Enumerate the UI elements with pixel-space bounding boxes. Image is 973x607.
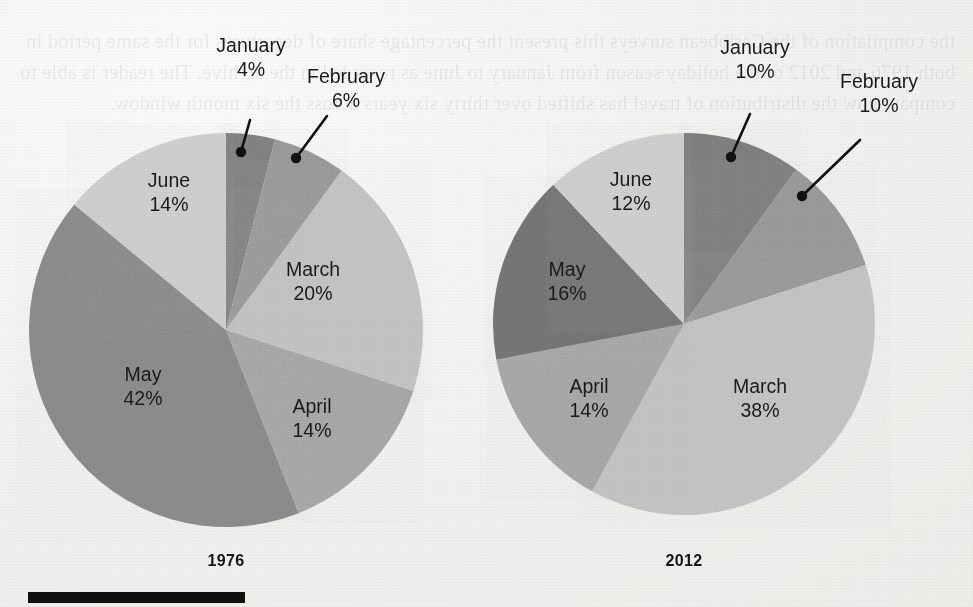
slice-value-june-1976: 14% <box>149 193 188 215</box>
slice-value-march-2012: 38% <box>740 399 779 421</box>
slice-label-june-1976: June <box>148 169 190 191</box>
callout-value-january-2012: 10% <box>735 60 774 82</box>
pie-chart-2012: March38%April14%May16%June12%January10%F… <box>493 36 918 569</box>
pie-chart-1976: March20%April14%May42%June14%January4%Fe… <box>29 34 423 569</box>
slice-label-april-2012: April <box>569 375 608 397</box>
slice-value-april-2012: 14% <box>569 399 608 421</box>
leader-dot-january-2012 <box>726 152 736 162</box>
callout-label-february-1976: February <box>307 65 385 87</box>
slice-value-april-1976: 14% <box>292 419 331 441</box>
figure-pie-charts: March20%April14%May42%June14%January4%Fe… <box>0 0 973 607</box>
slice-label-june-2012: June <box>610 168 652 190</box>
slice-label-march-2012: March <box>733 375 787 397</box>
pie-chart-svg: March20%April14%May42%June14%January4%Fe… <box>0 0 973 607</box>
leader-dot-february-1976 <box>291 153 301 163</box>
callout-value-february-1976: 6% <box>332 89 360 111</box>
leader-line-february-1976 <box>296 116 327 158</box>
leader-dot-february-2012 <box>797 191 807 201</box>
slice-label-april-1976: April <box>292 395 331 417</box>
callout-value-february-2012: 10% <box>859 94 898 116</box>
slice-label-march-1976: March <box>286 258 340 280</box>
callout-label-january-1976: January <box>216 34 286 56</box>
chart-year-caption-1976: 1976 <box>208 552 245 569</box>
scale-bar <box>28 592 245 603</box>
slice-label-may-2012: May <box>549 258 586 280</box>
callout-label-february-2012: February <box>840 70 918 92</box>
slice-label-may-1976: May <box>125 363 162 385</box>
slice-value-june-2012: 12% <box>611 192 650 214</box>
leader-dot-january-1976 <box>236 147 246 157</box>
chart-year-caption-2012: 2012 <box>666 552 703 569</box>
callout-label-january-2012: January <box>720 36 790 58</box>
slice-value-may-2012: 16% <box>547 282 586 304</box>
slice-value-may-1976: 42% <box>123 387 162 409</box>
callout-value-january-1976: 4% <box>237 58 265 80</box>
leader-line-february-2012 <box>802 140 860 196</box>
slice-value-march-1976: 20% <box>293 282 332 304</box>
